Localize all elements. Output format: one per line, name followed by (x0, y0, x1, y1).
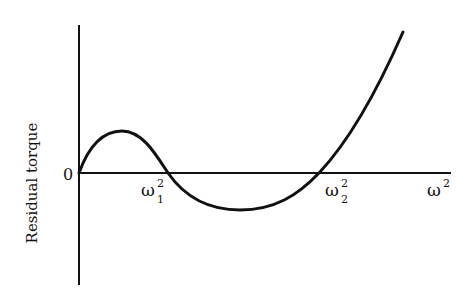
tick1-sup: 2 (157, 177, 164, 190)
tick2-sup: 2 (341, 177, 348, 190)
tick-label-omega2-squared: ω 2 2 (325, 177, 348, 206)
tick-label-omega1-squared: ω 2 1 (141, 177, 164, 206)
residual-torque-curve (79, 32, 403, 210)
tick1-sub: 1 (157, 193, 164, 206)
y-axis-label: Residual torque (23, 122, 41, 243)
tick1-base: ω (141, 180, 155, 200)
origin-label: 0 (63, 165, 73, 184)
residual-torque-diagram: Residual torque 0 ω 2 1 ω 2 2 ω 2 (0, 0, 473, 298)
tick2-base: ω (325, 180, 339, 200)
x-axis-base: ω (427, 180, 441, 200)
x-axis-label: ω 2 (427, 177, 450, 200)
tick2-sub: 2 (341, 193, 348, 206)
x-axis-sup: 2 (443, 177, 450, 190)
